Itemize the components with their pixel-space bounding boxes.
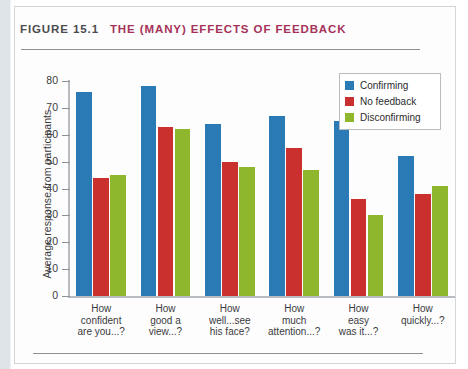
x-axis-category-label-line: confident: [65, 315, 137, 327]
x-axis-category-label-line: How: [387, 303, 459, 315]
y-axis-tick: [62, 81, 70, 82]
legend-label: Disconfirming: [360, 112, 421, 123]
bar-no-feedback[interactable]: [415, 194, 431, 296]
x-axis-category-label-line: How: [194, 303, 266, 315]
x-axis-category-label-line: easy: [322, 315, 394, 327]
bar-confirming[interactable]: [334, 121, 350, 296]
legend-item-no-feedback[interactable]: No feedback: [345, 94, 435, 108]
x-axis-category-label-line: good a: [129, 315, 201, 327]
x-axis-category-label-line: much: [258, 315, 330, 327]
bar-group: [205, 81, 255, 296]
bottom-divider: [33, 353, 423, 354]
x-axis-category-label-line: quickly...?: [387, 315, 459, 327]
bar-no-feedback[interactable]: [286, 148, 302, 296]
x-axis-category-label: Howquickly...?: [387, 303, 459, 326]
bar-confirming[interactable]: [398, 156, 414, 296]
y-axis-tick-label: 40: [24, 182, 58, 194]
legend-label: No feedback: [360, 96, 416, 107]
bar-group: [141, 81, 191, 296]
bar-no-feedback[interactable]: [93, 178, 109, 296]
bar-group: [269, 81, 319, 296]
bar-confirming[interactable]: [141, 86, 157, 296]
y-axis-tick: [62, 242, 70, 243]
bar-confirming[interactable]: [205, 124, 221, 296]
y-axis-tick: [62, 296, 70, 297]
y-axis-tick: [62, 108, 70, 109]
x-axis-category-label-line: are you...?: [65, 326, 137, 338]
y-axis-tick-label: 0: [24, 289, 58, 301]
x-axis-category-label-line: How: [65, 303, 137, 315]
x-axis-line: [68, 296, 455, 298]
x-axis-category-label: Howgood aview...?: [129, 303, 201, 338]
y-axis-tick-label: 20: [24, 235, 58, 247]
figure-panel: FIGURE 15.1 THE (MANY) EFFECTS OF FEEDBA…: [0, 0, 468, 369]
y-axis-tick-label: 80: [24, 74, 58, 86]
x-axis-category-label-line: How: [129, 303, 201, 315]
bar-disconfirming[interactable]: [110, 175, 126, 296]
bar-chart: Average response from participants 80706…: [0, 0, 468, 369]
bar-disconfirming[interactable]: [432, 186, 448, 296]
x-axis-category-label-line: How: [258, 303, 330, 315]
x-axis-category-label-line: attention...?: [258, 326, 330, 338]
bar-disconfirming[interactable]: [239, 167, 255, 296]
y-axis-tick-label: 30: [24, 208, 58, 220]
bar-no-feedback[interactable]: [222, 162, 238, 296]
y-axis-tick: [62, 189, 70, 190]
bar-confirming[interactable]: [269, 116, 285, 296]
bar-disconfirming[interactable]: [303, 170, 319, 296]
legend-item-confirming[interactable]: Confirming: [345, 78, 435, 92]
x-axis-category-label: Howwell...seehis face?: [194, 303, 266, 338]
x-axis-category-label-line: was it...?: [322, 326, 394, 338]
legend-item-disconfirming[interactable]: Disconfirming: [345, 110, 435, 124]
legend-label: Confirming: [360, 80, 408, 91]
y-axis-tick: [62, 135, 70, 136]
y-axis-tick-label: 70: [24, 101, 58, 113]
x-axis-category-label-line: well...see: [194, 315, 266, 327]
y-axis-tick: [62, 269, 70, 270]
x-axis-category-label-line: view...?: [129, 326, 201, 338]
legend-swatch-icon: [345, 97, 354, 106]
x-axis-category-label: Howmuchattention...?: [258, 303, 330, 338]
x-axis-category-label-line: How: [322, 303, 394, 315]
x-axis-category-label: Howeasywas it...?: [322, 303, 394, 338]
legend-swatch-icon: [345, 113, 354, 122]
y-axis-tick-label: 10: [24, 262, 58, 274]
legend-swatch-icon: [345, 81, 354, 90]
bar-no-feedback[interactable]: [351, 199, 367, 296]
x-axis-category-label: Howconfidentare you...?: [65, 303, 137, 338]
y-axis-tick-label: 60: [24, 128, 58, 140]
x-axis-category-label-line: his face?: [194, 326, 266, 338]
bar-disconfirming[interactable]: [175, 129, 191, 296]
bar-no-feedback[interactable]: [158, 127, 174, 296]
bar-confirming[interactable]: [76, 92, 92, 296]
y-axis-tick: [62, 162, 70, 163]
y-axis-tick-label: 50: [24, 155, 58, 167]
y-axis-tick: [62, 215, 70, 216]
bar-disconfirming[interactable]: [368, 215, 384, 296]
chart-legend: ConfirmingNo feedbackDisconfirming: [339, 73, 441, 130]
bar-group: [76, 81, 126, 296]
